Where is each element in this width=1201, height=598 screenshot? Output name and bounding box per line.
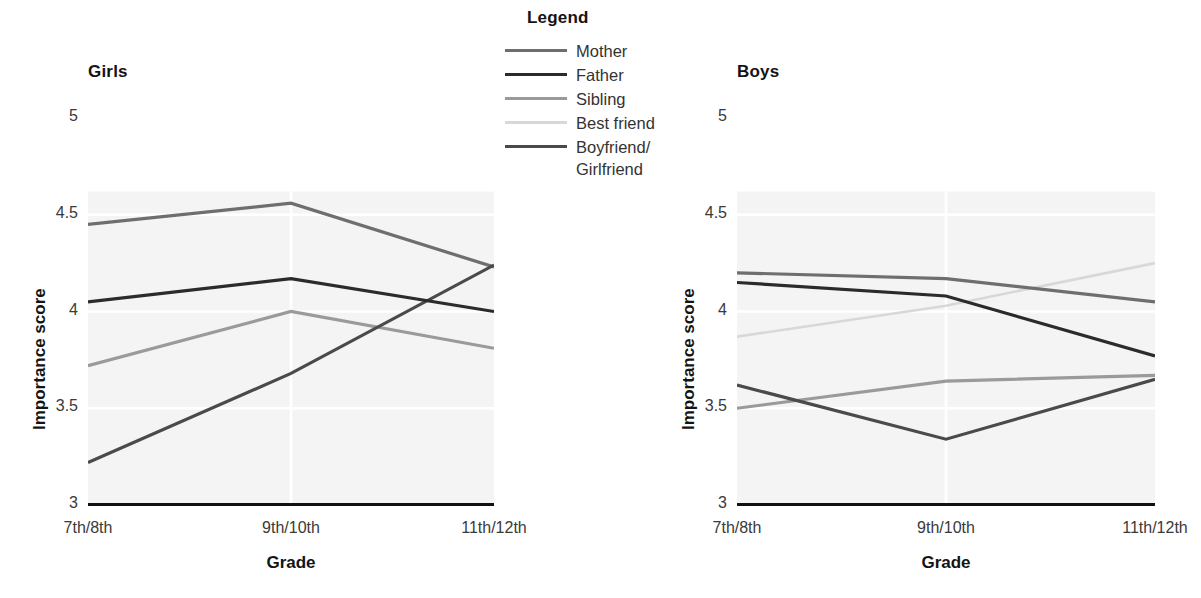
x-tick-label: 7th/8th bbox=[672, 519, 802, 537]
legend-swatch-father-icon bbox=[505, 73, 567, 76]
panel-title-girls: Girls bbox=[88, 62, 128, 82]
x-tick-label: 7th/8th bbox=[23, 519, 153, 537]
legend-label-sibling: Sibling bbox=[576, 88, 626, 110]
legend-swatch-sibling-icon bbox=[505, 97, 567, 100]
x-tick-label: 11th/12th bbox=[1090, 519, 1201, 537]
x-axis-label-boys: Grade bbox=[846, 553, 1046, 573]
x-tick-label: 11th/12th bbox=[429, 519, 559, 537]
y-tick-label: 4.5 bbox=[26, 204, 78, 222]
legend-item-partner[interactable]: Boyfriend/ Girlfriend bbox=[505, 136, 695, 182]
legend-item-sibling[interactable]: Sibling bbox=[505, 88, 695, 111]
y-tick-label: 5 bbox=[26, 107, 78, 125]
figure-canvas: Girls Importance score 33.544.55 7th/8th… bbox=[0, 0, 1201, 598]
legend-item-mother[interactable]: Mother bbox=[505, 40, 695, 63]
legend-label-father: Father bbox=[576, 64, 624, 86]
x-axis-line-girls bbox=[88, 503, 494, 506]
plot-svg-girls bbox=[88, 118, 494, 505]
x-tick-label: 9th/10th bbox=[881, 519, 1011, 537]
legend: Legend MotherFatherSiblingBest friendBoy… bbox=[505, 8, 695, 183]
plot-area-boys bbox=[737, 118, 1155, 505]
legend-swatch-mother-icon bbox=[505, 49, 567, 52]
legend-label-mother: Mother bbox=[576, 40, 627, 62]
legend-swatch-partner-icon bbox=[505, 145, 567, 148]
legend-label-partner: Boyfriend/ Girlfriend bbox=[576, 136, 650, 180]
y-tick-label: 4 bbox=[675, 301, 727, 319]
x-tick-label: 9th/10th bbox=[226, 519, 356, 537]
legend-item-father[interactable]: Father bbox=[505, 64, 695, 87]
y-tick-label: 3 bbox=[26, 494, 78, 512]
legend-swatch-best_friend-icon bbox=[505, 121, 567, 124]
x-axis-line-boys bbox=[737, 503, 1155, 506]
plot-svg-boys bbox=[737, 118, 1155, 505]
panel-title-boys: Boys bbox=[737, 62, 779, 82]
x-axis-label-girls: Grade bbox=[191, 553, 391, 573]
y-tick-label: 3.5 bbox=[26, 397, 78, 415]
y-tick-label: 3.5 bbox=[675, 397, 727, 415]
y-tick-label: 3 bbox=[675, 494, 727, 512]
legend-items: MotherFatherSiblingBest friendBoyfriend/… bbox=[505, 40, 695, 182]
plot-area-girls bbox=[88, 118, 494, 505]
legend-label-best_friend: Best friend bbox=[576, 112, 655, 134]
legend-item-best_friend[interactable]: Best friend bbox=[505, 112, 695, 135]
y-tick-label: 4.5 bbox=[675, 204, 727, 222]
legend-title: Legend bbox=[527, 8, 695, 28]
y-tick-label: 4 bbox=[26, 301, 78, 319]
